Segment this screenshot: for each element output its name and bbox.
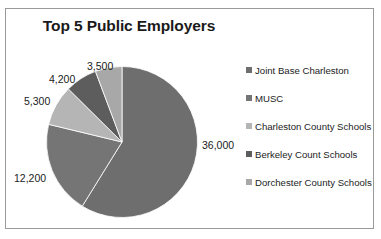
legend-item-label: MUSC: [255, 93, 283, 104]
data-label-dorchester-county-schools: 3,500: [87, 60, 113, 72]
legend-item-label: Joint Base Charleston: [255, 65, 349, 76]
chart-frame: Top 5 Public Employers 36,000 12,200 5,3…: [5, 8, 374, 229]
pie-chart-area: 36,000 12,200 5,300 4,200 3,500: [6, 33, 246, 229]
legend-item-label: Dorchester County Schools: [255, 177, 372, 188]
legend-swatch-icon: [246, 151, 252, 157]
data-label-joint-base-charleston: 36,000: [202, 139, 234, 151]
data-label-musc: 12,200: [14, 172, 46, 184]
pie-graphic: [46, 66, 198, 218]
legend-item-label: Charleston County Schools: [255, 121, 371, 132]
legend-swatch-icon: [246, 67, 252, 73]
legend-swatch-icon: [246, 179, 252, 185]
data-label-charleston-county-schools: 5,300: [24, 95, 50, 107]
legend-item-charleston-county-schools[interactable]: Charleston County Schools: [246, 121, 380, 132]
legend-swatch-icon: [246, 95, 252, 101]
pie-svg: [46, 66, 198, 218]
chart-legend: Joint Base Charleston MUSC Charleston Co…: [246, 65, 380, 188]
legend-swatch-icon: [246, 123, 252, 129]
legend-item-berkeley-count-schools[interactable]: Berkeley Count Schools: [246, 149, 380, 160]
legend-item-musc[interactable]: MUSC: [246, 93, 380, 104]
legend-item-dorchester-county-schools[interactable]: Dorchester County Schools: [246, 177, 380, 188]
legend-item-joint-base-charleston[interactable]: Joint Base Charleston: [246, 65, 380, 76]
data-label-berkeley-count-schools: 4,200: [49, 73, 75, 85]
legend-item-label: Berkeley Count Schools: [255, 149, 357, 160]
